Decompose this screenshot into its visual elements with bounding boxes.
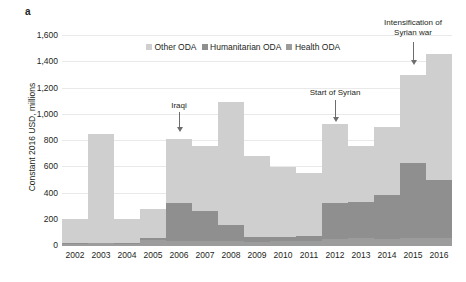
plot-area [62,36,452,246]
bar-group-2014[interactable] [374,127,400,246]
bar-segment[interactable] [348,238,374,246]
bar-group-2015[interactable] [400,75,426,246]
panel-label: a [25,6,31,18]
legend-item-label: Other ODA [155,42,197,52]
annotation-arrow-0 [179,112,180,127]
bar-segment[interactable] [140,240,166,246]
legend-swatch-icon [286,44,292,50]
bar-segment[interactable] [192,211,218,241]
bar-segment[interactable] [166,241,192,246]
legend-item-label: Health ODA [295,42,340,52]
y-axis-tick-label: 1,600 [14,31,58,40]
bar-group-2012[interactable] [322,124,348,246]
legend-item-0: Other ODA [146,42,197,52]
bar-segment[interactable] [244,242,270,246]
bar-segment[interactable] [140,209,166,239]
bar-segment[interactable] [88,243,114,246]
legend-swatch-icon [146,44,152,50]
chart-legend: Other ODAHumanitarian ODAHealth ODA [146,42,345,52]
annotation-label-2: Intensification of Syrian war [370,18,456,37]
bar-segment[interactable] [270,167,296,237]
x-axis-tick-labels: 2002200320042005200620072008200920102011… [62,250,452,266]
bar-segment[interactable] [348,146,374,202]
bar-segment[interactable] [400,75,426,164]
bar-segment[interactable] [218,102,244,225]
legend-item-2: Health ODA [286,42,340,52]
bar-segment[interactable] [166,139,192,203]
bar-segment[interactable] [374,195,400,238]
bar-group-2016[interactable] [426,54,452,246]
bar-group-2002[interactable] [62,219,88,246]
legend-item-1: Humanitarian ODA [202,42,282,52]
bar-segment[interactable] [62,219,88,243]
annotation-arrow-2 [413,42,414,60]
bar-segment[interactable] [296,173,322,235]
bar-segment[interactable] [374,127,400,196]
bar-group-2006[interactable] [166,139,192,246]
bar-segment[interactable] [400,163,426,238]
figure-panel-a: a Constant 2016 USD, millions 0200400600… [0,0,466,282]
bar-segment[interactable] [426,54,452,180]
bar-segment[interactable] [218,241,244,246]
bar-segment[interactable] [296,241,322,246]
bar-segment[interactable] [244,156,270,237]
bar-segment[interactable] [426,180,452,238]
annotation-arrow-1 [335,100,336,117]
bar-segment[interactable] [114,219,140,243]
bar-segment[interactable] [322,124,348,203]
bar-segment[interactable] [322,239,348,246]
annotation-label-1: Start of Syrian [295,88,375,98]
bar-segment[interactable] [166,203,192,240]
bar-group-2003[interactable] [88,134,114,246]
bar-segment[interactable] [114,244,140,246]
bar-group-2009[interactable] [244,156,270,246]
legend-swatch-icon [202,44,208,50]
bar-segment[interactable] [322,203,348,239]
y-axis-title: Constant 2016 USD, millions [27,42,37,232]
bar-group-2008[interactable] [218,102,244,246]
bar-group-2013[interactable] [348,146,374,246]
bar-group-2010[interactable] [270,167,296,246]
y-axis-tick-label: 0 [14,241,58,250]
bar-segment[interactable] [218,225,244,241]
bar-segment[interactable] [88,134,114,243]
annotation-label-0: Iraqi [149,101,209,111]
bar-segment[interactable] [400,238,426,246]
bar-segment[interactable] [192,146,218,212]
bar-segment[interactable] [62,244,88,246]
bar-group-2007[interactable] [192,146,218,246]
bar-segment[interactable] [426,238,452,246]
bar-segment[interactable] [348,202,374,238]
bar-group-2005[interactable] [140,209,166,246]
bar-group-2004[interactable] [114,219,140,246]
legend-item-label: Humanitarian ODA [210,42,281,52]
bar-group-2011[interactable] [296,173,322,246]
bar-series-container [62,36,452,246]
bar-segment[interactable] [192,241,218,246]
bar-segment[interactable] [270,241,296,246]
bar-segment[interactable] [374,239,400,246]
x-axis-tick-label: 2016 [423,250,455,260]
